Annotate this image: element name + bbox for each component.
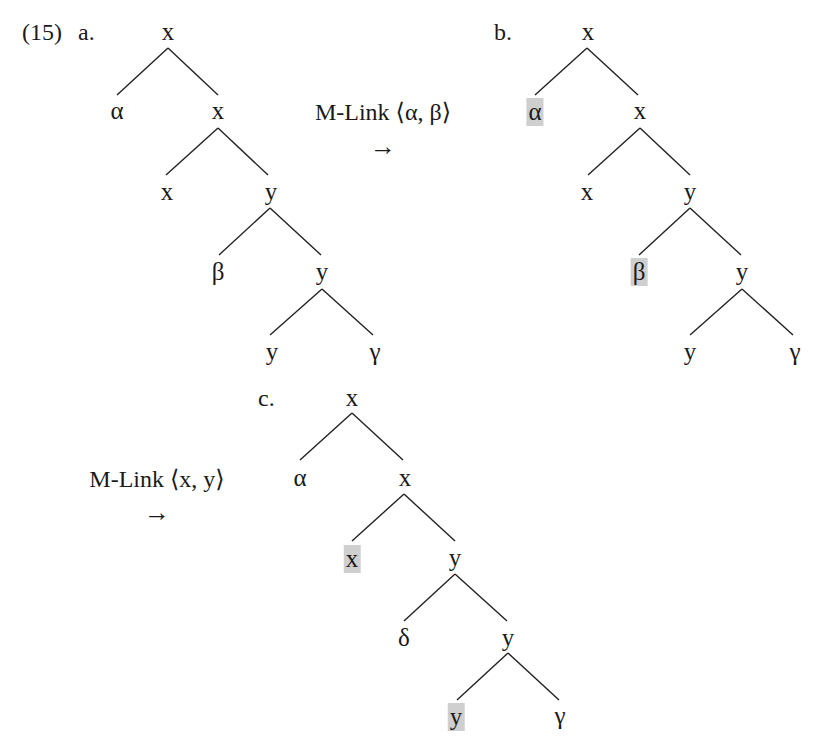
right-arrow-icon: → xyxy=(144,500,170,526)
tree-a-node-beta: β xyxy=(210,258,227,286)
tree-b-node-gamma: γ xyxy=(787,338,802,366)
tree-c-node-gamma: γ xyxy=(552,702,567,730)
tree-b-label: b. xyxy=(494,18,512,46)
tree-b-node-y1: y xyxy=(682,178,699,206)
tree-c-node-y1: y xyxy=(447,544,464,572)
tree-a-node-x2: x xyxy=(159,178,176,206)
tree-c-node-alpha: α xyxy=(291,464,308,492)
tree-b-node-x2: x xyxy=(579,178,596,206)
tree-a-edges xyxy=(117,48,373,335)
tree-b-node-y2: y xyxy=(734,258,751,286)
tree-b-node-y3: y xyxy=(682,338,699,366)
tree-a-label: a. xyxy=(78,18,95,46)
tree-a-node-y3: y xyxy=(264,338,281,366)
tree-a-node-x1: x xyxy=(210,97,227,125)
tree-a-node-y2: y xyxy=(314,258,331,286)
tree-c-root: x xyxy=(344,384,361,412)
tree-c-node-x1: x xyxy=(397,464,414,492)
tree-c-node-y3-highlighted: y xyxy=(448,703,465,731)
tree-a-node-alpha: α xyxy=(108,97,125,125)
tree-b-node-alpha-highlighted: α xyxy=(526,98,543,126)
operation-1-label: M-Link ⟨α, β⟩ xyxy=(315,98,451,126)
tree-diagram-figure: (15) a. x α x x y β y y γ M-Link ⟨α, β⟩ … xyxy=(0,0,818,751)
tree-b-node-beta-highlighted: β xyxy=(631,258,648,286)
tree-b-node-x1: x xyxy=(632,97,649,125)
operation-2-label: M-Link ⟨x, y⟩ xyxy=(89,465,224,493)
right-arrow-icon: → xyxy=(370,134,396,160)
tree-a-node-y1: y xyxy=(263,178,280,206)
tree-b-root: x xyxy=(580,18,597,46)
tree-c-node-delta: δ xyxy=(396,624,412,652)
tree-c-label: c. xyxy=(258,384,275,412)
example-number: (15) xyxy=(22,18,62,46)
tree-a-root: x xyxy=(160,18,177,46)
tree-c-edges xyxy=(300,413,559,700)
tree-c-node-y2: y xyxy=(500,624,517,652)
tree-c-node-x2-highlighted: x xyxy=(344,545,361,573)
tree-a-node-gamma: γ xyxy=(367,338,382,366)
tree-b-edges xyxy=(535,48,793,335)
